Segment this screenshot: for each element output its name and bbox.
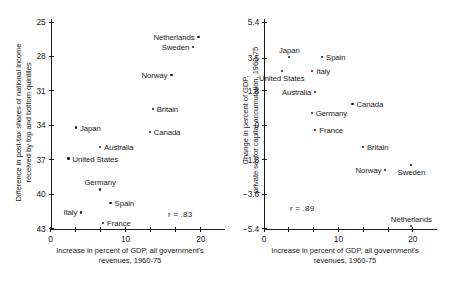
data-point-label: Germany [316, 108, 347, 117]
y-tick [262, 90, 267, 91]
data-point[interactable] [288, 56, 290, 58]
y-tick [262, 194, 267, 195]
chart-panel-right: 5.43.51.80−1.8−3.6−5.401020Change in per… [0, 0, 456, 281]
data-point-label: France [319, 126, 343, 135]
scatter-plot-figure: 2528313437404301020Difference in post-ta… [0, 0, 456, 281]
data-point[interactable] [314, 129, 316, 131]
x-axis-title: Increase in percent of GDP, all governme… [245, 246, 445, 266]
data-point-label: Spain [326, 53, 345, 62]
data-point-label: Italy [316, 66, 330, 75]
x-axis-line [264, 229, 437, 230]
x-minor-tick [363, 227, 364, 232]
x-tick-label: 0 [249, 234, 279, 244]
data-point-label: Canada [357, 100, 384, 109]
x-minor-tick [388, 227, 389, 232]
data-point-label: Australia [282, 87, 311, 96]
x-minor-tick [313, 227, 314, 232]
data-point[interactable] [321, 56, 323, 58]
x-tick-label: 20 [398, 234, 428, 244]
data-point-label: Britain [367, 143, 388, 152]
x-tick [412, 227, 413, 232]
data-point[interactable] [362, 146, 364, 148]
data-point-label: Netherlands [391, 214, 432, 223]
y-tick [262, 58, 267, 59]
y-tick-label: −5.4 [230, 224, 259, 234]
y-tick [262, 22, 267, 23]
data-point[interactable] [311, 112, 313, 114]
data-point-label: United States [259, 73, 305, 82]
data-point[interactable] [410, 164, 412, 166]
y-axis-title: Change in percent of GDP,private sector … [241, 15, 260, 225]
data-point[interactable] [314, 91, 316, 93]
data-point-label: Norway [355, 166, 381, 175]
data-point[interactable] [384, 169, 386, 171]
data-point-label: Sweden [398, 168, 426, 177]
y-tick [262, 159, 267, 160]
correlation-annotation: r = .89 [290, 204, 314, 213]
data-point[interactable] [311, 70, 313, 72]
data-point[interactable] [351, 103, 353, 105]
x-tick [338, 227, 339, 232]
x-tick-label: 10 [323, 234, 353, 244]
x-minor-tick [288, 227, 289, 232]
y-tick [262, 125, 267, 126]
data-point-label: Japan [279, 46, 300, 55]
x-tick [264, 227, 265, 232]
data-point[interactable] [281, 70, 283, 72]
